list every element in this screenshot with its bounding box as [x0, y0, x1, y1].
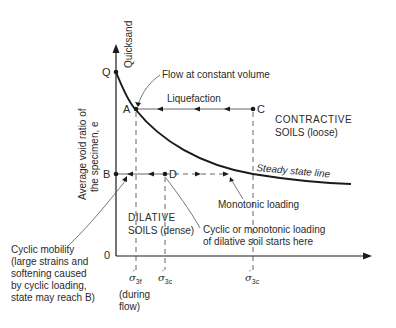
x-axis	[116, 253, 372, 260]
point-d-label: D	[169, 168, 177, 180]
dilative-dense: (dense)	[160, 225, 194, 236]
point-b	[114, 172, 119, 177]
cyclic-start-annotation-2: of dilative soil starts here	[203, 236, 313, 248]
y-axis-top-label: Quicksand	[123, 21, 135, 68]
y-axis-label-line1: Average void ratio of	[77, 108, 89, 200]
liquefaction-annotation: Liquefaction	[167, 93, 221, 105]
cyclic-mobility-line-3: softening caused	[11, 268, 87, 280]
sigma-3c-1-label: σ′3c	[158, 272, 172, 285]
point-q	[114, 70, 119, 75]
dilative-label-2: SOILS (dense)	[128, 225, 194, 237]
sigma-3f-note-1: (during	[119, 289, 150, 301]
monotonic-leader	[232, 181, 243, 199]
point-c	[251, 107, 256, 112]
cyclic-mobility-line-2: (large strains and	[11, 256, 88, 268]
dilative-label-1: DILATIVE	[128, 212, 176, 224]
cyclic-mobility-line-4: by cyclic loading,	[11, 280, 87, 292]
monotonic-annotation: Monotonic loading	[218, 199, 299, 211]
contractive-label-2: SOILS (loose)	[275, 127, 338, 139]
sigma-3f-label: σ′3f	[129, 272, 142, 285]
sigma-3c-2-label: σ′3c	[245, 272, 259, 285]
cyclic-start-annotation-1: Cyclic or monotonic loading	[203, 224, 325, 236]
point-c-label: C	[257, 103, 265, 115]
flow-leader	[138, 75, 160, 105]
point-d	[163, 172, 168, 177]
y-axis-label-line2: the specimen, e	[89, 121, 101, 192]
point-q-label: Q	[102, 66, 111, 78]
cyclic-mobility-path	[116, 172, 165, 177]
sigma-3f-note-2: flow)	[119, 301, 140, 313]
cyclic-mobility-line-1: Cyclic mobility	[11, 244, 74, 256]
liquefaction-path	[136, 107, 253, 112]
point-a	[134, 107, 139, 112]
origin-label: 0	[104, 249, 110, 261]
cyclic-mobility-line-5: state may reach B)	[11, 292, 95, 304]
point-b-label: B	[103, 168, 110, 180]
flow-annotation: Flow at constant volume	[162, 69, 270, 81]
point-a-label: A	[123, 103, 130, 115]
contractive-label-1: CONTRACTIVE	[275, 114, 352, 126]
dilative-soils: SOILS	[128, 225, 157, 236]
